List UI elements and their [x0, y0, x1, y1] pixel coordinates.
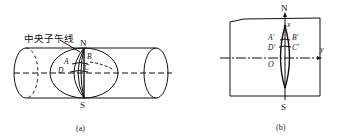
projection-plane — [230, 18, 320, 96]
x-axis-label: x — [286, 20, 291, 29]
point-c: C — [84, 63, 90, 72]
point-c-prime: C' — [292, 43, 299, 52]
figure-b-labels: N S x y O A' B' C' D' (b) — [267, 3, 324, 132]
north-label-a: N — [80, 38, 87, 48]
figure-a-cylinder-projection — [14, 40, 172, 98]
caption-b: (b) — [276, 123, 286, 132]
point-b-prime: B' — [292, 33, 299, 42]
cylinder-right-end — [144, 48, 168, 98]
x-point-dot — [284, 25, 286, 27]
zone-left-boundary — [281, 26, 286, 88]
zone-right-boundary — [285, 26, 290, 88]
y-axis-label: y — [319, 45, 324, 54]
south-label-a: S — [80, 100, 85, 110]
projection-diagram: 中央子午线 N S A B C D (a) N S x y O A' B' C'… — [0, 0, 349, 140]
point-d: D — [57, 66, 64, 75]
point-b: B — [87, 52, 92, 61]
origin-label: O — [268, 60, 274, 69]
caption-a: (a) — [76, 124, 85, 133]
figure-b-plane-projection — [220, 14, 320, 100]
south-label-b: S — [281, 102, 286, 112]
central-meridian-label: 中央子午线 — [24, 33, 74, 44]
point-a-prime: A' — [267, 33, 275, 42]
back-parallel — [90, 62, 114, 70]
north-label-b: N — [281, 3, 288, 13]
point-d-prime: D' — [267, 43, 275, 52]
point-a: A — [63, 57, 69, 66]
